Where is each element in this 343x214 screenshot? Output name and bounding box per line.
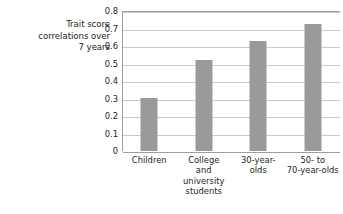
x-axis-category-label-line: College (177, 155, 232, 165)
gridline (123, 135, 340, 136)
y-axis-tick-label: 0.7 (96, 24, 118, 32)
x-axis-category-label-line: and (177, 165, 232, 175)
gridline (123, 152, 340, 153)
gridline (123, 100, 340, 101)
x-axis-category-labels: ChildrenCollegeanduniversitystudents30-y… (122, 155, 340, 213)
y-axis-tick-label: 0.1 (96, 129, 118, 137)
x-axis-category-label: 30-year-olds (231, 155, 286, 176)
gridline (123, 30, 340, 31)
x-axis-category-label-line: 30-year- (231, 155, 286, 165)
y-axis-tick-label: 0.5 (96, 59, 118, 67)
x-axis-category-label-line: students (177, 186, 232, 196)
y-axis-tick-label: 0.2 (96, 112, 118, 120)
gridlines (123, 12, 340, 151)
y-axis-tick-label: 0.4 (96, 77, 118, 85)
gridline (123, 12, 340, 13)
x-axis-category-label-line: Children (122, 155, 177, 165)
y-axis-title-line-1: Trait score (6, 19, 110, 31)
x-axis-category-label-line: university (177, 176, 232, 186)
y-axis-tick-label: 0 (96, 147, 118, 155)
x-axis-category-label-line: 70-year-olds (286, 165, 341, 175)
gridline (123, 47, 340, 48)
gridline (123, 117, 340, 118)
y-axis-tick-label: 0.3 (96, 94, 118, 102)
gridline (123, 82, 340, 83)
x-axis-category-label: 50- to70-year-olds (286, 155, 341, 176)
y-axis-tick-labels: 00.10.20.30.40.50.60.70.8 (96, 11, 118, 151)
plot-area (122, 11, 340, 151)
y-axis-title-line-2: correlations over (6, 31, 110, 43)
y-axis-tick-label: 0.6 (96, 42, 118, 50)
bar-chart: Trait score correlations over 7 years 00… (0, 0, 343, 214)
x-axis-category-label: Collegeanduniversitystudents (177, 155, 232, 197)
y-axis-tick-label: 0.8 (96, 7, 118, 15)
x-axis-category-label: Children (122, 155, 177, 165)
gridline (123, 65, 340, 66)
x-axis-category-label-line: olds (231, 165, 286, 175)
x-axis-category-label-line: 50- to (286, 155, 341, 165)
y-axis-title-line-3: 7 years (6, 42, 110, 54)
y-axis-title: Trait score correlations over 7 years (6, 19, 110, 54)
